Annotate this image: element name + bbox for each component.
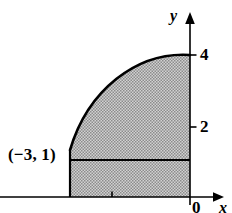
origin-label: 0 [192, 199, 201, 213]
figure-canvas [0, 0, 232, 213]
y-axis-arrowhead [185, 12, 195, 24]
corner-point-label: (−3, 1) [8, 146, 56, 163]
y-tick-label-2: 2 [200, 118, 209, 135]
shaded-region-fill [70, 55, 190, 197]
math-figure: 4 2 0 y x (−3, 1) [0, 0, 232, 213]
x-axis-label: x [219, 200, 227, 213]
shaded-region [70, 55, 190, 197]
y-axis-label: y [170, 8, 177, 24]
y-tick-label-4: 4 [200, 46, 209, 63]
